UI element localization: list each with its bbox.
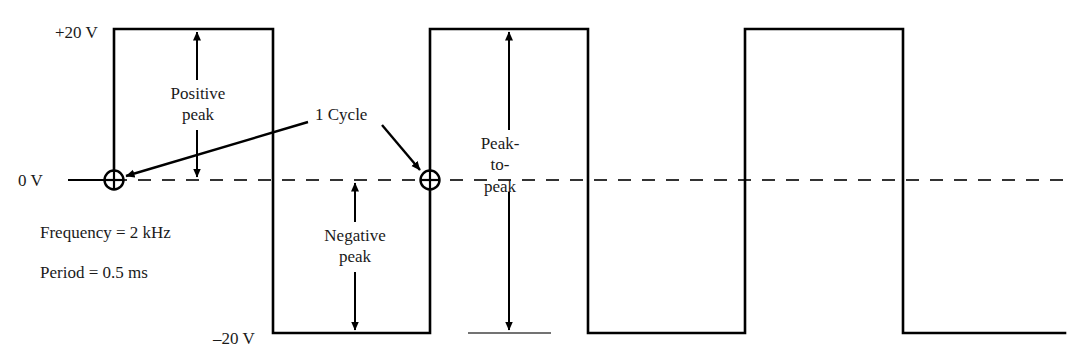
axis-label-zero-v: 0 V — [18, 170, 43, 191]
negative-peak-label: Negative peak — [305, 225, 405, 268]
square-wave-trace — [114, 29, 1065, 333]
cycle-marker-start — [105, 171, 124, 190]
axis-label-plus-20v: +20 V — [55, 22, 98, 43]
axis-label-minus-20v: –20 V — [213, 328, 255, 349]
peak-to-peak-label-line3: peak — [465, 176, 535, 197]
frequency-annotation: Frequency = 2 kHz — [40, 222, 171, 243]
positive-peak-label-line1: Positive — [152, 83, 244, 104]
one-cycle-label: 1 Cycle — [315, 104, 367, 125]
waveform-canvas — [0, 0, 1088, 362]
one-cycle-leader-left — [126, 122, 308, 176]
peak-to-peak-label-line2: to- — [465, 154, 535, 175]
peak-to-peak-label-line1: Peak- — [465, 133, 535, 154]
period-annotation: Period = 0.5 ms — [40, 262, 148, 283]
positive-peak-label-line2: peak — [152, 104, 244, 125]
one-cycle-leader-right — [382, 125, 420, 170]
positive-peak-label: Positive peak — [152, 83, 244, 126]
negative-peak-label-line1: Negative — [305, 225, 405, 246]
waveform-diagram: +20 V 0 V –20 V Frequency = 2 kHz Period… — [0, 0, 1088, 362]
peak-to-peak-label: Peak- to- peak — [465, 133, 535, 197]
negative-peak-label-line2: peak — [305, 246, 405, 267]
cycle-marker-end — [421, 171, 440, 190]
